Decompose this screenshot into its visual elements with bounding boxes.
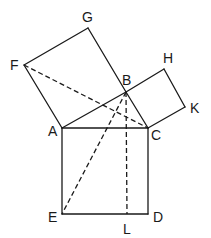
vertex-labels: F G B H K A C E D L: [10, 9, 200, 237]
label-G: G: [82, 9, 93, 25]
segment-HK: [164, 69, 185, 107]
diagram-canvas: F G B H K A C E D L: [0, 0, 211, 238]
label-C: C: [151, 127, 161, 143]
label-B: B: [122, 72, 131, 88]
segment-BC: [126, 92, 148, 128]
label-K: K: [190, 100, 200, 116]
segment-KC: [148, 107, 185, 128]
label-F: F: [10, 57, 19, 73]
segment-GB: [88, 28, 126, 92]
solid-lines: [24, 28, 185, 214]
label-L: L: [123, 221, 131, 237]
label-H: H: [163, 50, 173, 66]
label-D: D: [153, 209, 163, 225]
segment-AF: [24, 65, 62, 128]
segment-FG: [24, 28, 88, 65]
pythagorean-figure: F G B H K A C E D L: [0, 0, 211, 238]
segment-BL: [126, 92, 127, 214]
segment-BH: [126, 69, 164, 92]
label-A: A: [48, 123, 58, 139]
label-E: E: [48, 209, 57, 225]
